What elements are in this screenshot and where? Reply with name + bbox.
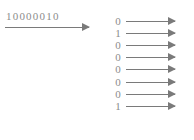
output-bit: 0	[113, 64, 123, 75]
output-bit: 1	[113, 101, 123, 112]
output-bit: 0	[113, 40, 123, 51]
output-arrow	[126, 57, 175, 58]
output-arrow	[126, 82, 175, 83]
output-arrow	[126, 106, 175, 107]
output-bit: 0	[113, 16, 123, 27]
output-arrow	[126, 33, 175, 34]
output-bit: 0	[113, 89, 123, 100]
output-bit: 1	[113, 28, 123, 39]
output-arrow	[126, 94, 175, 95]
output-bit: 0	[113, 52, 123, 63]
output-bit: 0	[113, 77, 123, 88]
output-arrow	[126, 45, 175, 46]
output-arrow	[126, 69, 175, 70]
output-arrow	[126, 21, 175, 22]
input-arrow	[5, 27, 89, 28]
serial-input-label: 10000010	[6, 11, 60, 22]
